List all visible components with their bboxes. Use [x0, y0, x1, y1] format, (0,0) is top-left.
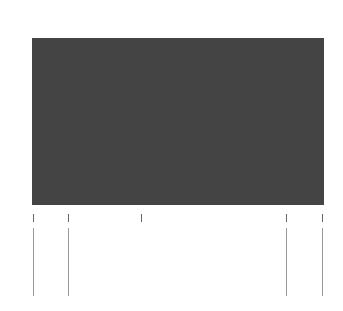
marker-tick-end-back	[68, 214, 69, 222]
left-row-labels	[13, 38, 29, 205]
marker-tick-start-back	[286, 214, 287, 222]
marker-tick-end-left-front	[33, 214, 34, 222]
marker-bar-start-back	[286, 228, 287, 296]
knitting-chart-grid	[32, 38, 324, 205]
marker-bar-start-right-front	[322, 228, 323, 296]
bottom-column-labels	[32, 206, 324, 216]
marker-bar-end-left-front	[33, 228, 34, 296]
right-row-labels	[327, 38, 343, 205]
marker-bar-end-back	[68, 228, 69, 296]
marker-tick-start-right-front	[322, 214, 323, 222]
marker-tick-center	[141, 214, 142, 222]
top-column-labels	[32, 27, 324, 37]
